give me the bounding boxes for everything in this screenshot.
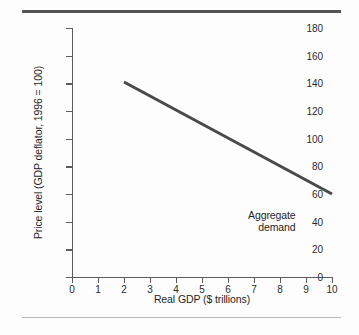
y-tick-120 <box>66 111 72 112</box>
y-axis-title-wrapper: Price level (GDP deflator, 1996 = 100) <box>30 28 46 277</box>
x-tick-9 <box>306 277 307 283</box>
y-tick-140 <box>66 83 72 84</box>
y-tick-label-80: 80 <box>312 161 323 172</box>
x-tick-5 <box>202 277 203 283</box>
x-tick-8 <box>280 277 281 283</box>
y-axis-title: Price level (GDP deflator, 1996 = 100) <box>30 28 46 277</box>
x-tick-0 <box>72 277 73 283</box>
y-tick-80 <box>66 166 72 167</box>
y-tick-20 <box>66 249 72 250</box>
x-tick-1 <box>98 277 99 283</box>
y-tick-label-0: 0 <box>318 272 323 283</box>
y-tick-label-180: 180 <box>307 23 323 34</box>
y-tick-180 <box>66 28 72 29</box>
y-tick-label-100: 100 <box>307 133 323 144</box>
x-tick-2 <box>124 277 125 283</box>
y-tick-label-140: 140 <box>307 78 323 89</box>
top-divider-rule <box>22 10 341 13</box>
y-tick-label-60: 60 <box>312 189 323 200</box>
x-tick-6 <box>228 277 229 283</box>
x-axis-title: Real GDP ($ trillions) <box>72 293 332 305</box>
x-tick-4 <box>176 277 177 283</box>
y-tick-label-20: 20 <box>312 244 323 255</box>
x-tick-3 <box>150 277 151 283</box>
y-tick-label-120: 120 <box>307 106 323 117</box>
annotation-line-2: demand <box>176 221 296 234</box>
y-tick-60 <box>66 194 72 195</box>
y-axis-line <box>72 28 73 277</box>
y-tick-label-160: 160 <box>307 50 323 61</box>
y-tick-label-40: 40 <box>312 216 323 227</box>
y-tick-100 <box>66 139 72 140</box>
y-tick-40 <box>66 222 72 223</box>
bottom-divider-rule <box>22 317 341 318</box>
x-tick-10 <box>332 277 333 283</box>
annotation-line-1: Aggregate <box>176 209 296 222</box>
aggregate-demand-annotation: Aggregate demand <box>176 209 296 234</box>
figure-container: 020406080100120140160180012345678910 Pri… <box>0 0 359 335</box>
plot-area: 020406080100120140160180012345678910 <box>72 28 332 277</box>
x-tick-7 <box>254 277 255 283</box>
y-tick-160 <box>66 56 72 57</box>
